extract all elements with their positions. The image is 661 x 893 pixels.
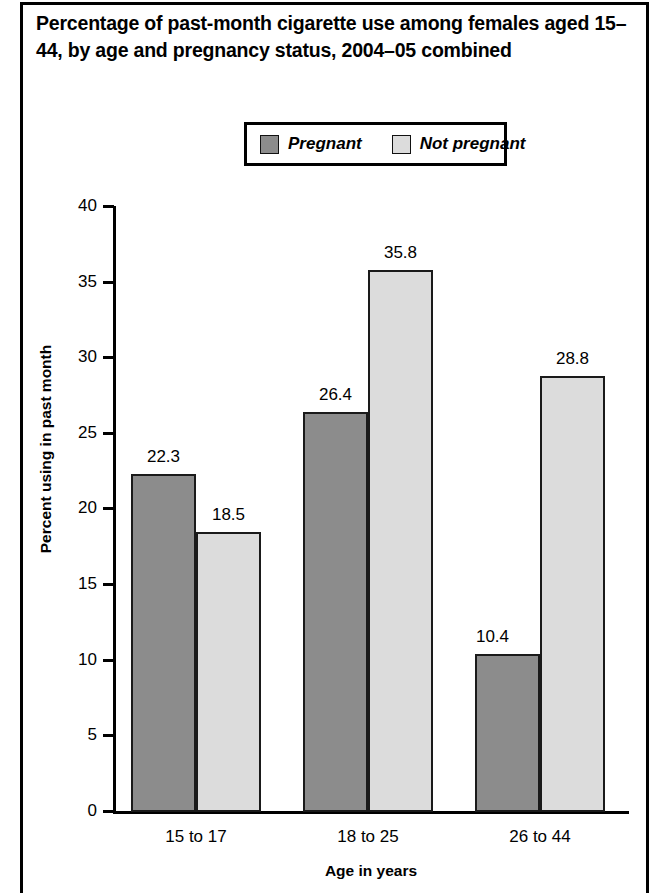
y-tick-40 [103, 205, 114, 208]
bar-pregnant-26-to-44 [475, 654, 540, 812]
frame-left-rule [20, 2, 23, 893]
bar-pregnant-15-to-17 [131, 474, 196, 812]
y-tick-label-25: 25 [57, 423, 97, 443]
y-tick-label-15: 15 [57, 574, 97, 594]
bar-label-pregnant-18-to-25: 26.4 [303, 385, 368, 405]
y-tick-label-10: 10 [57, 650, 97, 670]
legend-item-not-pregnant: Not pregnant [392, 125, 526, 163]
legend-item-pregnant: Pregnant [260, 125, 362, 163]
bar-label-not-pregnant-26-to-44: 28.8 [540, 349, 605, 369]
y-tick-25 [103, 432, 114, 435]
y-tick-0 [103, 810, 114, 813]
legend-swatch-pregnant-icon [260, 135, 279, 154]
y-tick-5 [103, 734, 114, 737]
chart-legend: Pregnant Not pregnant [244, 122, 507, 166]
bar-label-pregnant-26-to-44: 10.4 [460, 627, 525, 647]
legend-label-not-pregnant: Not pregnant [420, 134, 526, 154]
y-tick-20 [103, 507, 114, 510]
legend-label-pregnant: Pregnant [288, 134, 362, 154]
y-tick-15 [103, 583, 114, 586]
y-tick-label-0: 0 [57, 801, 97, 821]
x-axis-title: Age in years [113, 862, 629, 880]
y-tick-30 [103, 356, 114, 359]
y-axis-line [113, 206, 116, 814]
bar-pregnant-18-to-25 [303, 412, 368, 812]
chart-title: Percentage of past-month cigarette use a… [36, 10, 636, 64]
bar-label-not-pregnant-18-to-25: 35.8 [368, 243, 433, 263]
y-tick-label-40: 40 [57, 196, 97, 216]
y-tick-label-5: 5 [57, 725, 97, 745]
legend-swatch-not-pregnant-icon [392, 135, 411, 154]
chart-figure: Percentage of past-month cigarette use a… [0, 0, 661, 893]
y-tick-label-35: 35 [57, 272, 97, 292]
y-tick-10 [103, 659, 114, 662]
y-axis-title: Percent using in past month [37, 339, 55, 559]
bar-label-not-pregnant-15-to-17: 18.5 [196, 505, 261, 525]
bar-not-pregnant-26-to-44 [540, 376, 605, 812]
frame-top-rule [20, 2, 649, 5]
y-tick-35 [103, 281, 114, 284]
x-tick-label-15-to-17: 15 to 17 [131, 827, 261, 847]
x-tick-label-18-to-25: 18 to 25 [303, 827, 433, 847]
bar-not-pregnant-15-to-17 [196, 532, 261, 812]
y-tick-label-20: 20 [57, 498, 97, 518]
bar-not-pregnant-18-to-25 [368, 270, 433, 812]
frame-right-rule [646, 2, 649, 893]
y-tick-label-30: 30 [57, 347, 97, 367]
bar-label-pregnant-15-to-17: 22.3 [131, 447, 196, 467]
x-tick-label-26-to-44: 26 to 44 [475, 827, 605, 847]
